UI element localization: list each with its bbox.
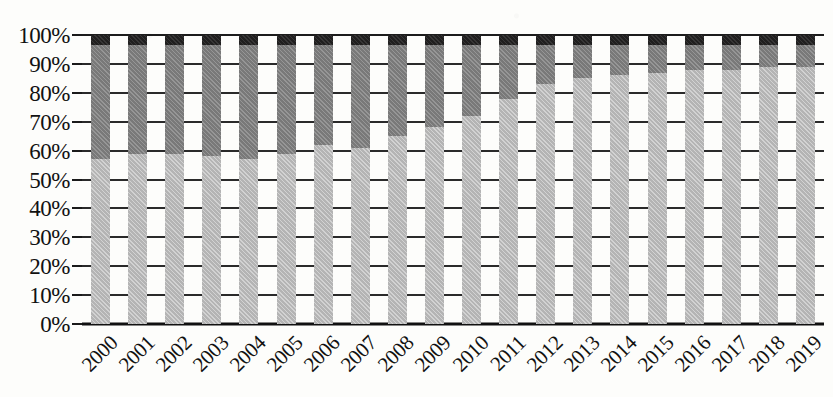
- bar-segment-segment-bottom: [610, 75, 629, 324]
- bar-segment-segment-middle: [425, 45, 444, 127]
- bar-segment-segment-bottom: [759, 67, 778, 324]
- y-tick-mark: [72, 323, 82, 325]
- y-tick-mark: [72, 121, 82, 123]
- bar-segment-segment-bottom: [388, 136, 407, 324]
- bar-segment-segment-top: [536, 35, 555, 45]
- y-tick-mark: [72, 34, 82, 36]
- bar-2011[interactable]: [499, 35, 518, 324]
- bar-segment-segment-middle: [277, 45, 296, 153]
- bar-segment-segment-middle: [759, 45, 778, 67]
- bar-segment-segment-top: [759, 35, 778, 45]
- bar-segment-segment-top: [91, 35, 110, 45]
- bar-segment-segment-bottom: [462, 116, 481, 324]
- bar-2006[interactable]: [314, 35, 333, 324]
- bar-2013[interactable]: [573, 35, 592, 324]
- bar-segment-segment-bottom: [722, 70, 741, 324]
- bar-segment-segment-bottom: [536, 84, 555, 324]
- bar-segment-segment-top: [165, 35, 184, 45]
- bar-segment-segment-middle: [796, 45, 815, 67]
- y-tick-label: 50%: [29, 168, 70, 191]
- bar-segment-segment-top: [239, 35, 258, 45]
- bar-segment-segment-middle: [351, 45, 370, 148]
- bar-segment-segment-top: [425, 35, 444, 45]
- bar-2018[interactable]: [759, 35, 778, 324]
- bars-layer: [82, 35, 824, 324]
- y-tick-label: 60%: [29, 139, 70, 162]
- bar-segment-segment-top: [314, 35, 333, 45]
- bar-segment-segment-middle: [722, 45, 741, 70]
- y-tick-label: 70%: [29, 110, 70, 133]
- bar-segment-segment-top: [610, 35, 629, 45]
- bar-segment-segment-top: [202, 35, 221, 45]
- plot-area: [82, 35, 824, 324]
- bar-segment-segment-middle: [202, 45, 221, 156]
- bar-segment-segment-top: [462, 35, 481, 45]
- y-tick-mark: [72, 150, 82, 152]
- bar-2008[interactable]: [388, 35, 407, 324]
- y-tick-mark: [72, 63, 82, 65]
- bar-segment-segment-bottom: [685, 70, 704, 324]
- bar-segment-segment-bottom: [573, 78, 592, 324]
- bar-2017[interactable]: [722, 35, 741, 324]
- y-tick-mark: [72, 294, 82, 296]
- bar-segment-segment-bottom: [239, 159, 258, 324]
- y-tick-mark: [72, 265, 82, 267]
- bar-segment-segment-bottom: [499, 99, 518, 324]
- bar-2004[interactable]: [239, 35, 258, 324]
- bar-segment-segment-middle: [165, 45, 184, 153]
- bar-segment-segment-middle: [91, 45, 110, 159]
- bar-2010[interactable]: [462, 35, 481, 324]
- bar-2003[interactable]: [202, 35, 221, 324]
- bar-2016[interactable]: [685, 35, 704, 324]
- x-axis: 2000200120022003200420052006200720082009…: [82, 326, 824, 397]
- bar-segment-segment-bottom: [796, 67, 815, 324]
- y-tick-label: 20%: [29, 255, 70, 278]
- bar-segment-segment-middle: [462, 45, 481, 116]
- bar-2019[interactable]: [796, 35, 815, 324]
- bar-2009[interactable]: [425, 35, 444, 324]
- y-tick-mark: [72, 179, 82, 181]
- bar-2001[interactable]: [128, 35, 147, 324]
- bar-segment-segment-middle: [685, 45, 704, 70]
- bar-segment-segment-bottom: [165, 154, 184, 325]
- bar-segment-segment-top: [648, 35, 667, 45]
- bar-segment-segment-bottom: [128, 154, 147, 325]
- y-tick-label: 100%: [18, 24, 70, 47]
- bar-segment-segment-bottom: [648, 73, 667, 324]
- bar-segment-segment-bottom: [202, 156, 221, 324]
- bar-segment-segment-middle: [610, 45, 629, 75]
- bar-segment-segment-middle: [314, 45, 333, 145]
- bar-segment-segment-middle: [128, 45, 147, 153]
- stacked-bar-chart: 0%10%20%30%40%50%60%70%80%90%100% 200020…: [0, 0, 833, 397]
- bar-segment-segment-bottom: [351, 148, 370, 324]
- y-tick-label: 0%: [40, 313, 70, 336]
- bar-2005[interactable]: [277, 35, 296, 324]
- bar-segment-segment-middle: [573, 45, 592, 78]
- bar-segment-segment-middle: [499, 45, 518, 98]
- y-tick-mark: [72, 236, 82, 238]
- y-tick-mark: [72, 207, 82, 209]
- bar-2007[interactable]: [351, 35, 370, 324]
- bar-2002[interactable]: [165, 35, 184, 324]
- bar-2012[interactable]: [536, 35, 555, 324]
- bar-segment-segment-top: [499, 35, 518, 45]
- y-tick-mark: [72, 92, 82, 94]
- bar-segment-segment-top: [722, 35, 741, 45]
- y-tick-label: 10%: [29, 284, 70, 307]
- bar-2000[interactable]: [91, 35, 110, 324]
- bar-2014[interactable]: [610, 35, 629, 324]
- bar-segment-segment-middle: [648, 45, 667, 72]
- bar-segment-segment-middle: [388, 45, 407, 136]
- bar-segment-segment-top: [388, 35, 407, 45]
- bar-segment-segment-top: [685, 35, 704, 45]
- bar-segment-segment-top: [351, 35, 370, 45]
- bar-segment-segment-top: [573, 35, 592, 45]
- bar-segment-segment-bottom: [314, 145, 333, 324]
- bar-segment-segment-middle: [536, 45, 555, 84]
- bar-segment-segment-top: [277, 35, 296, 45]
- y-tick-label: 90%: [29, 52, 70, 75]
- y-tick-label: 30%: [29, 226, 70, 249]
- bar-2015[interactable]: [648, 35, 667, 324]
- y-tick-label: 80%: [29, 81, 70, 104]
- bar-segment-segment-top: [128, 35, 147, 45]
